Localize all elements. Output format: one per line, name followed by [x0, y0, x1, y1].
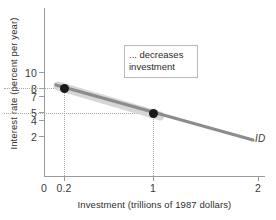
investment-demand-chart: 10 8 7 5 4 2 0 0.2 1 2 Interest rate (pe… — [0, 0, 276, 220]
x-tick-2 — [258, 176, 259, 181]
shift-highlight-band — [58, 86, 160, 116]
x-axis-line — [44, 176, 265, 177]
data-point-0-2-7 — [60, 84, 69, 93]
gridline-5-percent — [4, 113, 155, 114]
gridline-investment-1 — [153, 113, 154, 176]
x-tick-1 — [153, 176, 154, 181]
x-tick-label-1: 1 — [133, 182, 173, 194]
data-point-1-5 — [149, 109, 158, 118]
y-axis-title: Interest rate (percent per year) — [8, 9, 19, 159]
curve-label-id: ID — [255, 133, 266, 144]
y-axis-line — [44, 8, 45, 176]
x-tick-label-2: 2 — [238, 182, 276, 194]
x-tick-0-2 — [64, 176, 65, 181]
callout-decreases-investment: ... decreases investment — [124, 45, 198, 78]
y-tick-10 — [39, 72, 44, 73]
y-tick-4 — [39, 120, 44, 121]
x-axis-title: Investment (trillions of 1987 dollars) — [44, 199, 265, 210]
y-tick-2 — [39, 136, 44, 137]
gridline-investment-0-2 — [64, 88, 65, 176]
callout-line-1: ... decreases — [129, 49, 193, 61]
x-tick-label-0-2: 0.2 — [44, 182, 84, 194]
callout-line-2: investment — [129, 61, 193, 73]
gridline-7-percent — [4, 88, 66, 89]
y-tick-7 — [39, 96, 44, 97]
